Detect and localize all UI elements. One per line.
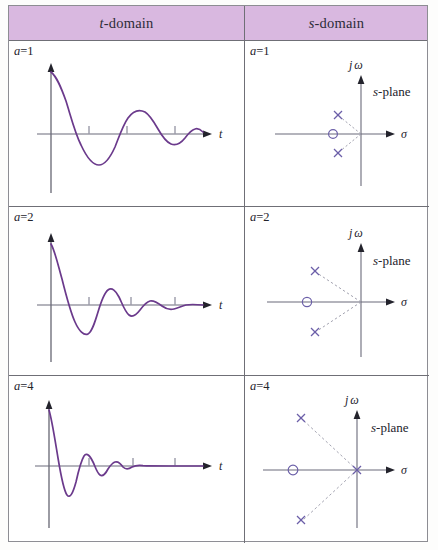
sigma-axis-arrow-a1 [386, 131, 395, 138]
jomega-j-a2: j [347, 226, 353, 240]
jomega-label-a2: jω [347, 226, 363, 240]
radial-dash-lower-a4 [303, 470, 357, 520]
s-plane-label-a2: s-plane [373, 253, 411, 268]
s-plane-rest-a4: -plane [376, 420, 409, 435]
plot-t-domain-a2: t [9, 207, 244, 375]
jomega-axis-arrow-a4 [354, 410, 361, 419]
t-axis-label-a2: t [219, 298, 223, 312]
header-t-domain: t-domain [9, 6, 244, 40]
jomega-w-a4: ω [350, 393, 358, 407]
t-axis-label-a1: t [219, 127, 223, 141]
jomega-j-a1: j [347, 58, 353, 72]
cell-t-domain-a4: a=4 t [9, 376, 244, 543]
radial-dash-upper-a2 [317, 273, 361, 302]
plot-s-plane-a1: σ jω s-plane [245, 41, 429, 206]
plot-t-domain-a4: t [9, 376, 244, 543]
jomega-axis-arrow-a1 [358, 75, 365, 84]
jomega-w-a2: ω [354, 226, 362, 240]
waveform-curve-a4 [49, 410, 203, 496]
jomega-w-a1: ω [354, 58, 362, 72]
s-plane-label-a4: s-plane [371, 420, 409, 435]
y-axis-arrow-a1 [48, 63, 55, 72]
radial-dash-lower-a2 [317, 302, 361, 331]
plot-s-plane-a4: σ jω s-plane [245, 376, 429, 543]
t-axis-arrow-a4 [203, 463, 212, 470]
cell-t-domain-a2: a=2 t [9, 207, 244, 375]
sigma-label-a4: σ [401, 463, 408, 477]
figure-root: t-domain s-domain a=1 t [0, 0, 438, 550]
jomega-label-a1: jω [347, 58, 363, 72]
pole-lower-a1 [334, 149, 342, 157]
sigma-label-a2: σ [401, 295, 408, 309]
sigma-axis-arrow-a2 [386, 299, 395, 306]
s-plane-label-a1: s-plane [373, 84, 411, 99]
y-axis-arrow-a4 [46, 400, 53, 409]
sigma-label-a1: σ [401, 127, 408, 141]
s-plane-rest-a1: -plane [378, 84, 411, 99]
waveform-curve-a2 [51, 244, 203, 334]
jomega-axis-arrow-a2 [358, 243, 365, 252]
y-axis-arrow-a2 [48, 233, 55, 242]
cell-s-domain-a2: a=2 σ jω s-plane [245, 207, 429, 375]
comparison-table: t-domain s-domain a=1 t [8, 5, 428, 542]
radial-dash-upper-a4 [303, 420, 357, 470]
plot-t-domain-a1: t [9, 41, 244, 206]
sigma-axis-arrow-a4 [386, 467, 395, 474]
plot-s-plane-a2: σ jω s-plane [245, 207, 429, 375]
cell-s-domain-a4: a=4 σ jω s-plane [245, 376, 429, 543]
pole-lower-a4 [297, 516, 305, 524]
jomega-j-a4: j [343, 393, 349, 407]
pole-upper-a1 [334, 111, 342, 119]
header-s-domain: s-domain [244, 6, 429, 40]
header-t-domain-rest: -domain [104, 15, 154, 31]
header-s-domain-rest: -domain [315, 15, 365, 31]
t-axis-arrow-a2 [203, 302, 212, 309]
t-axis-label-a4: t [219, 459, 223, 473]
waveform-curve-a1 [51, 72, 203, 165]
jomega-label-a4: jω [343, 393, 359, 407]
cell-s-domain-a1: a=1 σ jω s-plane [245, 41, 429, 206]
table-header-row: t-domain s-domain [9, 6, 427, 41]
pole-lower-a2 [311, 328, 319, 336]
pole-upper-a2 [311, 267, 319, 275]
pole-upper-a4 [297, 414, 305, 422]
t-axis-arrow-a1 [203, 131, 212, 138]
cell-t-domain-a1: a=1 t [9, 41, 244, 206]
s-plane-rest-a2: -plane [378, 253, 411, 268]
